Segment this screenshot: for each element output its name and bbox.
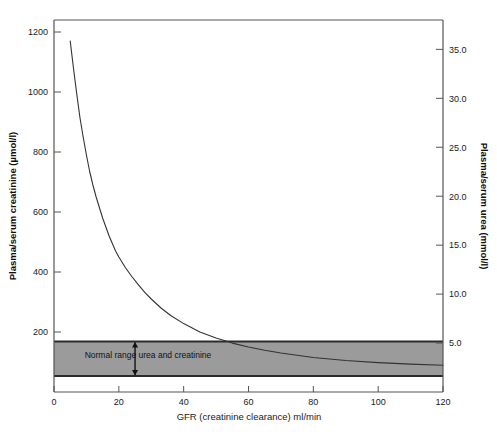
y2-tick-label: 10.0 [449, 289, 467, 299]
y2-tick-label: 20.0 [449, 192, 467, 202]
y2-tick-label: 25.0 [449, 143, 467, 153]
y-tick-label: 200 [33, 327, 48, 337]
chart-container: 020406080100120 20040060080010001200 5.0… [0, 0, 497, 437]
x-tick-label: 20 [114, 397, 124, 407]
y-tick-label: 1200 [28, 27, 48, 37]
y-axis-right-title: Plasma/serum urea (mmol/l) [479, 143, 490, 270]
x-tick-label: 60 [243, 397, 253, 407]
y-axis-left-title: Plasma/serum creatinine (µmol/l) [7, 132, 18, 281]
y-tick-label: 400 [33, 267, 48, 277]
x-tick-label: 80 [308, 397, 318, 407]
y2-tick-label: 35.0 [449, 45, 467, 55]
x-tick-label: 120 [435, 397, 450, 407]
y2-tick-label: 15.0 [449, 240, 467, 250]
normal-range-band-label: Normal range urea and creatinine [85, 350, 212, 360]
y-tick-label: 800 [33, 147, 48, 157]
y2-tick-label: 30.0 [449, 94, 467, 104]
x-tick-label: 40 [179, 397, 189, 407]
y-tick-label: 1000 [28, 87, 48, 97]
y-tick-label: 600 [33, 207, 48, 217]
y2-tick-label: 5.0 [449, 338, 462, 348]
plasma-creatinine-urea-vs-gfr-chart: 020406080100120 20040060080010001200 5.0… [0, 0, 497, 437]
x-axis-title: GFR (creatinine clearance) ml/min [177, 411, 322, 422]
x-tick-label: 0 [51, 397, 56, 407]
x-tick-label: 100 [371, 397, 386, 407]
